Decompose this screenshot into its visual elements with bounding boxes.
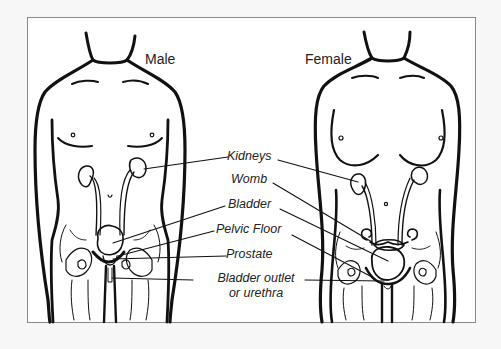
label-bladder-outlet-line2: or urethra	[206, 286, 306, 301]
female-title: Female	[305, 51, 352, 67]
female-figure	[315, 32, 459, 322]
label-bladder: Bladder	[228, 197, 271, 211]
label-prostate: Prostate	[226, 247, 273, 261]
label-bladder-outlet-line1: Bladder outlet	[206, 271, 306, 286]
label-bladder-outlet: Bladder outlet or urethra	[206, 271, 306, 301]
label-pelvic-floor: Pelvic Floor	[216, 222, 281, 236]
male-title: Male	[145, 51, 175, 67]
label-kidneys: Kidneys	[227, 149, 271, 163]
male-figure	[35, 33, 185, 322]
label-womb: Womb	[231, 172, 267, 186]
